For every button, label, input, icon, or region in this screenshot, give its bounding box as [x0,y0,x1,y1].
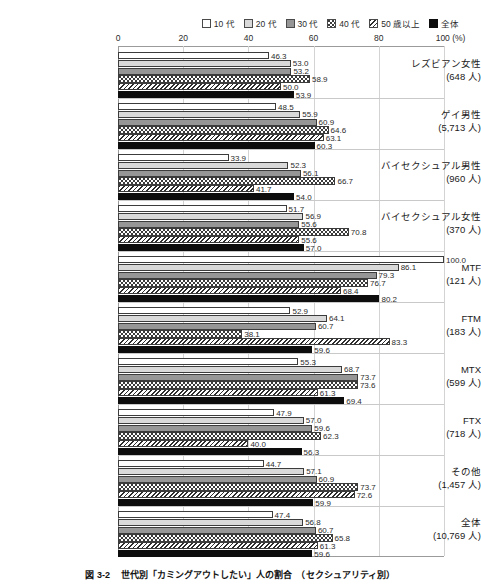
legend-swatch-icon-4 [369,19,378,28]
bar-9-0 [118,511,273,518]
group-separator [118,98,444,99]
category-name: FTX [463,415,481,426]
category-count: (5,713 人) [371,121,481,134]
x-tick-label-60: 60 [309,33,318,43]
bar-value-label-9-5: 59.6 [314,550,330,559]
group-separator [118,506,444,507]
category-label-5: FTM(183 人) [371,312,481,338]
legend-item-2[interactable]: 30 代 [286,17,319,29]
legend-label-1: 20 代 [256,17,277,29]
legend-label-4: 50 歳以上 [381,17,420,29]
bar-3-4 [118,236,299,243]
bar-value-label-3-3: 70.8 [351,228,367,237]
category-count: (1,457 人) [371,478,481,491]
group-separator [118,149,444,150]
category-label-2: バイセクシュアル男性(960 人) [371,159,481,185]
legend-swatch-icon-5 [429,19,438,28]
bar-2-4 [118,185,254,192]
category-name: レズビアン女性 [411,58,481,69]
bar-5-3 [118,330,242,337]
bar-0-2 [118,68,291,75]
legend-swatch-icon-3 [327,19,336,28]
legend-label-5: 全体 [441,17,459,29]
bar-4-4 [118,287,341,294]
bar-value-label-9-3: 65.8 [335,534,351,543]
bar-3-1 [118,213,303,220]
figure-caption: 図 3-2 世代別「カミングアウトしたい」人の割合 （セクシュアリティ別） [0,568,481,581]
legend-item-4[interactable]: 50 歳以上 [369,17,420,29]
legend-item-0[interactable]: 10 代 [202,17,235,29]
category-name: バイセクシュアル女性 [381,211,481,222]
bar-7-4 [118,440,248,447]
bar-1-3 [118,126,329,133]
bar-2-3 [118,177,335,184]
legend-label-3: 40 代 [339,17,360,29]
bar-2-0 [118,154,229,161]
legend-item-1[interactable]: 20 代 [244,17,277,29]
bar-5-4 [118,338,390,345]
bar-5-1 [118,315,327,322]
bar-8-2 [118,476,317,483]
category-label-1: ゲイ男性(5,713 人) [371,108,481,134]
bar-7-0 [118,409,274,416]
bar-4-2 [118,272,377,279]
bar-3-0 [118,205,287,212]
bar-5-0 [118,307,290,314]
category-count: (10,769 人) [371,529,481,542]
category-count: (960 人) [371,172,481,185]
bar-4-0 [118,256,444,263]
bar-8-3 [118,483,358,490]
bar-value-label-4-1: 86.1 [401,263,417,272]
bar-6-3 [118,381,358,388]
category-label-8: その他(1,457 人) [371,465,481,491]
bar-1-4 [118,134,324,141]
chart-container: 10 代20 代30 代40 代50 歳以上全体 020406080100 (%… [0,0,481,585]
bar-value-label-2-3: 66.7 [337,177,353,186]
group-separator [118,302,444,303]
bar-3-2 [118,221,299,228]
x-tick-label-80: 80 [374,33,383,43]
category-count: (718 人) [371,427,481,440]
legend-item-3[interactable]: 40 代 [327,17,360,29]
category-name: 全体 [461,517,481,528]
bar-6-2 [118,374,358,381]
chart-legend: 10 代20 代30 代40 代50 歳以上全体 [0,17,481,29]
bar-2-1 [118,162,288,169]
bar-7-2 [118,425,312,432]
bar-6-1 [118,366,342,373]
bar-1-1 [118,111,300,118]
bar-0-3 [118,75,310,82]
x-axis-tick-labels: 020406080100 (%) [0,33,481,45]
bar-value-label-0-3: 58.9 [312,75,328,84]
legend-swatch-icon-1 [244,19,253,28]
bar-9-2 [118,527,316,534]
category-name: ゲイ男性 [441,109,481,120]
bar-8-1 [118,468,304,475]
bar-7-3 [118,432,321,439]
bar-5-2 [118,323,316,330]
bar-1-2 [118,119,317,126]
bar-value-label-5-4: 83.3 [392,338,408,347]
bar-9-3 [118,534,333,541]
bar-8-0 [118,460,264,467]
bar-0-1 [118,60,291,67]
group-separator [118,455,444,456]
bar-4-1 [118,264,399,271]
bar-value-label-8-4: 72.6 [357,491,373,500]
bar-7-1 [118,417,304,424]
category-name: FTM [461,313,481,324]
bar-9-5 [118,550,312,557]
category-label-6: MTX(599 人) [371,363,481,389]
bar-0-4 [118,83,281,90]
x-tick-label-20: 20 [178,33,187,43]
bar-9-1 [118,519,303,526]
category-count: (370 人) [371,223,481,236]
category-label-9: 全体(10,769 人) [371,516,481,542]
bar-9-4 [118,542,318,549]
category-label-0: レズビアン女性(648 人) [371,57,481,83]
bar-1-0 [118,103,276,110]
legend-item-5[interactable]: 全体 [429,17,459,29]
bar-6-4 [118,389,318,396]
category-count: (648 人) [371,70,481,83]
bar-value-label-4-3: 76.7 [370,279,386,288]
